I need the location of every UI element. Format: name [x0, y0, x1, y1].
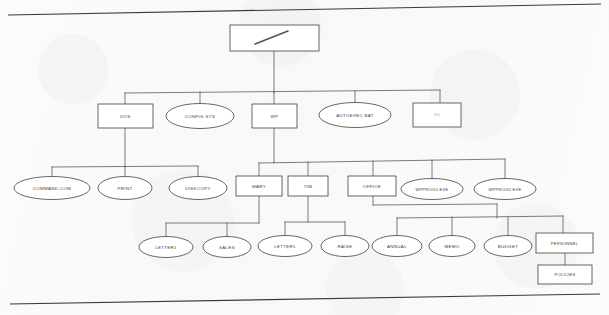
node-ss-label: SS — [434, 112, 440, 117]
node-command-com[interactable]: COMMAND.COM — [14, 177, 90, 200]
connector-group-root — [125, 51, 440, 104]
node-raise[interactable]: RAISE — [321, 236, 369, 257]
node-memo-label: MEMO — [444, 244, 459, 249]
node-tim[interactable]: TIM — [288, 176, 328, 196]
node-annual-label: ANNUAL — [387, 244, 407, 249]
node-ss[interactable]: SS — [413, 103, 461, 127]
node-mary-label: MARY — [252, 184, 266, 189]
root-directory-node[interactable]: \ — [230, 25, 319, 51]
node-memo[interactable]: MEMO — [429, 236, 475, 257]
directory-tree-diagram: \ DOS CONFIG.SYS WP AUTOEXEC.BAT SS COMM… — [0, 0, 609, 315]
node-config-sys-label: CONFIG.SYS — [185, 114, 216, 119]
node-personnel-label: PERSONNEL — [551, 241, 579, 246]
top-page-edge — [8, 4, 601, 15]
node-letter1-tim-label: LETTER1 — [274, 244, 296, 249]
diagram-page: \ DOS CONFIG.SYS WP AUTOEXEC.BAT SS COMM… — [0, 0, 609, 315]
node-office[interactable]: OFFICE — [348, 176, 396, 196]
node-letter1-tim[interactable]: LETTER1 — [258, 236, 312, 257]
node-wpprog1-exe[interactable]: WPPROG1.EXE — [401, 179, 463, 200]
node-annual[interactable]: ANNUAL — [372, 236, 422, 257]
node-budget[interactable]: BUDGET — [484, 236, 532, 257]
node-policies-label: POLICIES — [555, 272, 576, 277]
node-diskcopy[interactable]: DISKCOPY — [169, 177, 227, 200]
node-letter1-mary[interactable]: LETTER1 — [139, 237, 193, 258]
connector-group-mary — [166, 196, 259, 237]
node-dos-label: DOS — [120, 114, 131, 119]
node-wpprog1-exe-label: WPPROG1.EXE — [415, 187, 448, 192]
node-office-label: OFFICE — [363, 184, 381, 189]
node-wp[interactable]: WP — [252, 104, 297, 128]
connector-group-tim — [285, 196, 345, 236]
node-wpprog2-exe-label: WPPROG2.EXE — [488, 187, 521, 192]
node-budget-label: BUDGET — [498, 244, 518, 249]
node-policies[interactable]: POLICIES — [538, 265, 592, 284]
bottom-page-edge — [10, 294, 600, 304]
connector-group-dos — [52, 128, 198, 178]
node-sales-label: SALES — [219, 245, 235, 250]
node-autoexec-bat-label: AUTOEXEC.BAT — [336, 113, 374, 118]
node-tim-label: TIM — [304, 184, 313, 189]
node-personnel[interactable]: PERSONNEL — [536, 233, 593, 253]
node-sales[interactable]: SALES — [203, 237, 251, 258]
node-wp-label: WP — [271, 114, 279, 119]
node-wpprog2-exe[interactable]: WPPROG2.EXE — [474, 179, 536, 200]
connector-group-office — [373, 196, 563, 236]
node-mary[interactable]: MARY — [236, 176, 282, 196]
node-letter1-mary-label: LETTER1 — [155, 245, 177, 250]
node-raise-label: RAISE — [338, 244, 353, 249]
node-diskcopy-label: DISKCOPY — [185, 186, 211, 191]
node-config-sys[interactable]: CONFIG.SYS — [166, 104, 234, 129]
node-autoexec-bat[interactable]: AUTOEXEC.BAT — [319, 103, 391, 128]
node-command-com-label: COMMAND.COM — [33, 186, 71, 191]
node-dos[interactable]: DOS — [98, 104, 153, 128]
connector-group-wp — [259, 128, 505, 179]
node-print-label: PRINT — [118, 186, 133, 191]
node-print[interactable]: PRINT — [98, 177, 152, 200]
